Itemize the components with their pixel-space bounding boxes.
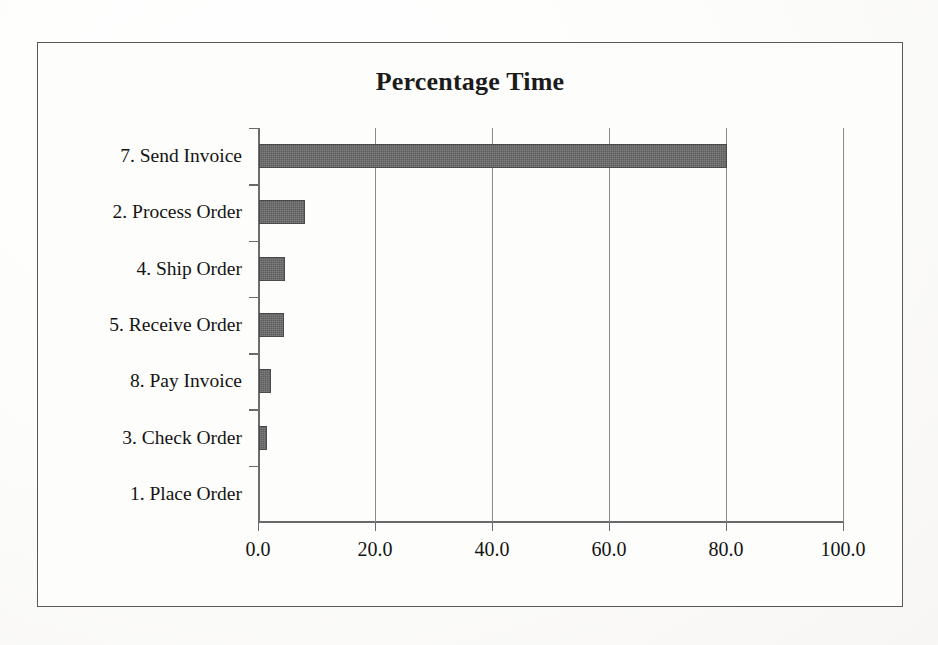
gridline-100.0	[843, 128, 844, 522]
plot-area	[258, 128, 843, 522]
x-axis-label: 100.0	[821, 538, 866, 561]
bar	[259, 313, 284, 337]
bar	[259, 369, 271, 393]
x-axis-label: 40.0	[475, 538, 510, 561]
bar	[259, 200, 305, 224]
gridline-20.0	[375, 128, 376, 522]
gridline-80.0	[726, 128, 727, 522]
gridline-60.0	[609, 128, 610, 522]
category-label: 2. Process Order	[113, 202, 242, 222]
category-label: 3. Check Order	[122, 428, 242, 448]
y-tick	[249, 297, 258, 298]
x-tick-20.0	[375, 522, 376, 531]
y-tick	[249, 184, 258, 185]
x-axis-label: 80.0	[709, 538, 744, 561]
y-tick	[249, 353, 258, 354]
category-label: 4. Ship Order	[136, 259, 242, 279]
category-label: 5. Receive Order	[109, 315, 242, 335]
x-axis-label: 0.0	[246, 538, 271, 561]
chart-title: Percentage Time	[38, 67, 902, 97]
y-tick-top	[249, 128, 258, 129]
bar	[259, 144, 727, 168]
category-axis-labels: 7. Send Invoice2. Process Order4. Ship O…	[38, 128, 250, 522]
x-tick-80.0	[726, 522, 727, 531]
x-axis-tick-labels: 0.020.040.060.080.0100.0	[258, 538, 843, 578]
x-tick-60.0	[609, 522, 610, 531]
x-axis-label: 60.0	[592, 538, 627, 561]
category-label: 7. Send Invoice	[120, 146, 242, 166]
category-label: 8. Pay Invoice	[130, 371, 242, 391]
gridline-40.0	[492, 128, 493, 522]
x-tick-100.0	[843, 522, 844, 531]
bar	[259, 257, 285, 281]
chart-frame: Percentage Time 7. Send Invoice2. Proces…	[37, 42, 903, 607]
page-background: Percentage Time 7. Send Invoice2. Proces…	[0, 0, 938, 645]
y-tick	[249, 241, 258, 242]
x-tick-40.0	[492, 522, 493, 531]
bar	[259, 426, 267, 450]
category-label: 1. Place Order	[130, 484, 242, 504]
y-tick	[249, 409, 258, 410]
y-tick	[249, 466, 258, 467]
x-axis-line	[258, 521, 843, 523]
x-tick-0.0	[258, 522, 259, 531]
x-axis-label: 20.0	[358, 538, 393, 561]
